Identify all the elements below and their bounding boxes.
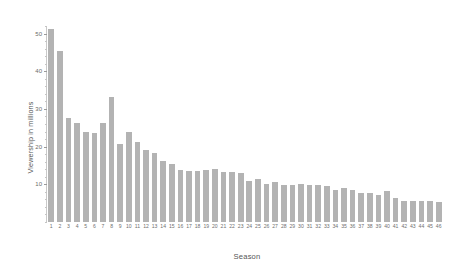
bar-slot[interactable]: 19 (203, 26, 209, 222)
bar[interactable] (186, 171, 192, 222)
bar-slot[interactable]: 43 (410, 26, 416, 222)
bar[interactable] (74, 123, 80, 222)
bar-slot[interactable]: 13 (152, 26, 158, 222)
bar-slot[interactable]: 6 (92, 26, 98, 222)
bar-slot[interactable]: 3 (66, 26, 72, 222)
bar-slot[interactable]: 41 (393, 26, 399, 222)
bar-slot[interactable]: 18 (195, 26, 201, 222)
bar[interactable] (246, 181, 252, 222)
bar-slot[interactable]: 22 (229, 26, 235, 222)
bar-slot[interactable]: 2 (57, 26, 63, 222)
bar-slot[interactable]: 7 (100, 26, 106, 222)
bar[interactable] (410, 201, 416, 222)
bar[interactable] (109, 97, 115, 222)
bar-slot[interactable]: 14 (160, 26, 166, 222)
bar[interactable] (135, 142, 141, 222)
y-axis-tick-label: 50 (35, 31, 42, 37)
x-axis-tick-label: 34 (333, 224, 339, 229)
bar[interactable] (66, 118, 72, 222)
bar[interactable] (48, 29, 54, 222)
bar[interactable] (324, 186, 330, 222)
x-axis-tick-label: 19 (203, 224, 209, 229)
bar[interactable] (350, 190, 356, 222)
bar-slot[interactable]: 29 (290, 26, 296, 222)
bar[interactable] (376, 195, 382, 222)
bar[interactable] (367, 193, 373, 222)
bar-slot[interactable]: 45 (427, 26, 433, 222)
bar-slot[interactable]: 42 (401, 26, 407, 222)
bar-slot[interactable]: 34 (333, 26, 339, 222)
bar[interactable] (92, 133, 98, 222)
bar[interactable] (427, 201, 433, 222)
bar[interactable] (152, 153, 158, 222)
x-axis-tick-label: 22 (229, 224, 235, 229)
bar[interactable] (272, 182, 278, 222)
bar[interactable] (401, 201, 407, 222)
bar-slot[interactable]: 25 (255, 26, 261, 222)
bar[interactable] (281, 185, 287, 222)
bar-slot[interactable]: 46 (436, 26, 442, 222)
bar-slot[interactable]: 33 (324, 26, 330, 222)
bar[interactable] (212, 169, 218, 222)
bar-slot[interactable]: 24 (246, 26, 252, 222)
bar[interactable] (160, 161, 166, 222)
bar-slot[interactable]: 12 (143, 26, 149, 222)
bar[interactable] (238, 173, 244, 222)
bar[interactable] (333, 190, 339, 222)
bar-slot[interactable]: 8 (109, 26, 115, 222)
bar-slot[interactable]: 32 (315, 26, 321, 222)
bar-slot[interactable]: 9 (117, 26, 123, 222)
bar[interactable] (126, 132, 132, 222)
bar-slot[interactable]: 31 (307, 26, 313, 222)
bar[interactable] (341, 188, 347, 222)
bar-slot[interactable]: 11 (135, 26, 141, 222)
bar-slot[interactable]: 26 (264, 26, 270, 222)
x-axis-tick-label: 24 (246, 224, 252, 229)
bar[interactable] (143, 150, 149, 222)
bar[interactable] (117, 144, 123, 222)
bar-slot[interactable]: 23 (238, 26, 244, 222)
bar[interactable] (178, 170, 184, 222)
bar-slot[interactable]: 40 (384, 26, 390, 222)
bar[interactable] (436, 202, 442, 222)
bar[interactable] (358, 193, 364, 222)
bar[interactable] (315, 185, 321, 222)
bar[interactable] (195, 171, 201, 222)
bar-slot[interactable]: 28 (281, 26, 287, 222)
bar[interactable] (290, 185, 296, 222)
bar-slot[interactable]: 39 (376, 26, 382, 222)
bar-slot[interactable]: 10 (126, 26, 132, 222)
bar-slot[interactable]: 44 (419, 26, 425, 222)
bar[interactable] (229, 172, 235, 222)
bar[interactable] (57, 51, 63, 223)
bar[interactable] (100, 123, 106, 222)
bar-slot[interactable]: 35 (341, 26, 347, 222)
bar-slot[interactable]: 5 (83, 26, 89, 222)
bar[interactable] (419, 201, 425, 222)
bar-slot[interactable]: 27 (272, 26, 278, 222)
bar[interactable] (169, 164, 175, 222)
x-axis-tick-label: 44 (419, 224, 425, 229)
bar[interactable] (221, 172, 227, 223)
bar-slot[interactable]: 38 (367, 26, 373, 222)
bar-slot[interactable]: 4 (74, 26, 80, 222)
bar[interactable] (264, 184, 270, 222)
bar[interactable] (298, 184, 304, 222)
bar-slot[interactable]: 16 (178, 26, 184, 222)
x-axis-tick-label: 37 (358, 224, 364, 229)
bar-slot[interactable]: 36 (350, 26, 356, 222)
bar-slot[interactable]: 37 (358, 26, 364, 222)
bar-slot[interactable]: 15 (169, 26, 175, 222)
bar-slot[interactable]: 20 (212, 26, 218, 222)
bar[interactable] (83, 132, 89, 222)
bar-slot[interactable]: 21 (221, 26, 227, 222)
bar[interactable] (307, 185, 313, 222)
bar-slot[interactable]: 17 (186, 26, 192, 222)
x-axis-tick-label: 39 (376, 224, 382, 229)
bar[interactable] (203, 170, 209, 222)
bar[interactable] (393, 198, 399, 223)
bar[interactable] (384, 191, 390, 222)
bar-slot[interactable]: 30 (298, 26, 304, 222)
bar-slot[interactable]: 1 (48, 26, 54, 222)
bar[interactable] (255, 179, 261, 222)
